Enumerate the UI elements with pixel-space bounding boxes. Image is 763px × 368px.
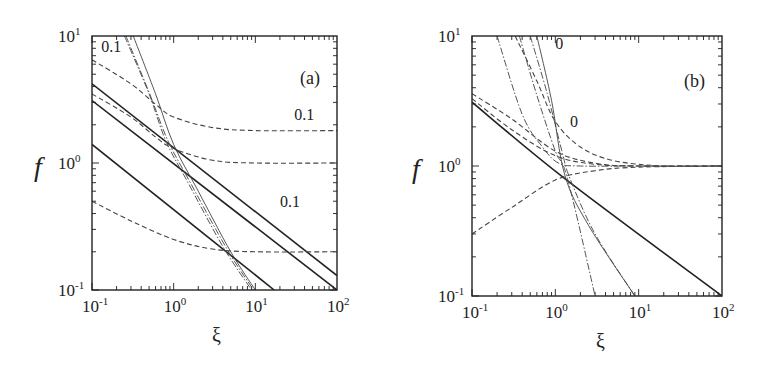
panel-a: 10-110010110210-1100101ξf(a)0.10.10.1: [34, 25, 350, 346]
y-tick-label: 101: [58, 25, 81, 46]
x-tick-label: 101: [245, 295, 267, 316]
series-dashdot-2: [519, 36, 595, 296]
x-tick-label: 100: [164, 295, 187, 316]
curve-annotation: 0: [570, 113, 578, 130]
x-tick-label: 100: [545, 301, 568, 322]
y-tick-label: 10-1: [58, 279, 84, 300]
series-solid-3: [92, 144, 274, 290]
x-tick-label: 101: [629, 301, 652, 322]
y-tick-label: 100: [438, 155, 461, 176]
figure: 10-110010110210-1100101ξf(a)0.10.10.1 10…: [0, 0, 763, 368]
y-tick-label: 10-1: [438, 285, 464, 306]
y-tick-label: 100: [58, 152, 81, 173]
x-axis-label: ξ: [212, 324, 221, 346]
panel-label: (a): [300, 68, 320, 89]
series-dashdot-1: [124, 36, 251, 290]
curve-annotation: 0: [555, 35, 563, 52]
x-tick-label: 10-1: [462, 301, 488, 322]
series-solid: [472, 102, 722, 296]
series-dashed-upper-3: [472, 99, 722, 167]
series-solid-2: [92, 101, 337, 290]
x-tick-label: 102: [712, 301, 735, 322]
panel-label: (b): [684, 71, 705, 92]
series-dashed-lower: [472, 166, 722, 234]
x-axis-label: ξ: [596, 330, 605, 352]
series-dashdot-1: [497, 36, 722, 166]
x-tick-label: 10-1: [82, 295, 108, 316]
y-tick-label: 101: [438, 25, 461, 46]
curve-annotation: 0.1: [101, 38, 121, 55]
y-axis-label: f: [34, 151, 45, 182]
curve-annotation: 0.1: [280, 193, 300, 210]
series-dashed-upper-2: [472, 94, 722, 167]
x-tick-label: 102: [327, 295, 350, 316]
y-axis-label: f: [412, 153, 423, 184]
curve-annotation: 0.1: [294, 106, 314, 123]
series-dashed-upper-1: [515, 36, 722, 166]
panel-b: 10-110010110210-1100101ξf(b)00: [412, 25, 735, 352]
